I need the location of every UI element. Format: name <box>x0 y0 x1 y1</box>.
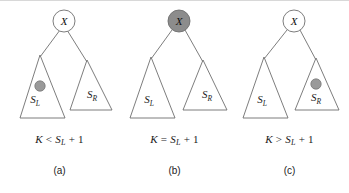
condition-operator: = <box>161 133 167 145</box>
panel-a-diagram: SL SR X <box>2 0 117 133</box>
condition-lhs: K <box>265 133 273 145</box>
left-subtree-triangle <box>243 57 288 118</box>
panel-label-b: (b) <box>117 165 232 176</box>
right-subtree-triangle <box>70 60 112 110</box>
edge-root-to-left <box>40 30 60 57</box>
edge-root-to-right <box>185 30 203 62</box>
target-marker <box>35 81 45 91</box>
panel-c: SL SR X K>SL+ 1 (c) <box>232 0 347 193</box>
panel-c-diagram: SL SR X <box>232 0 347 133</box>
edge-root-to-right <box>67 30 87 62</box>
edge-root-to-left <box>264 30 287 59</box>
root-node-label: X <box>60 15 69 27</box>
condition-operator: < <box>46 133 52 145</box>
root-node-label: X <box>175 15 184 27</box>
panel-label-a: (a) <box>2 165 117 176</box>
condition-rhs-tail: + 1 <box>299 133 314 145</box>
right-subtree-triangle <box>183 60 227 110</box>
left-subtree-triangle <box>130 57 175 118</box>
edge-root-to-right <box>300 30 316 60</box>
target-marker <box>311 79 321 89</box>
panel-label-c: (c) <box>232 165 347 176</box>
condition-c: K>SL+ 1 <box>232 133 347 147</box>
condition-rhs-tail: + 1 <box>184 133 199 145</box>
edge-root-to-left <box>151 30 172 59</box>
condition-b: K=SL+ 1 <box>117 133 232 147</box>
figure-container: SL SR X K<SL+ 1 (a) SL SR X K=SL+ 1 (b) <box>0 0 349 193</box>
condition-operator: > <box>276 133 282 145</box>
condition-lhs: K <box>150 133 158 145</box>
condition-lhs: K <box>35 133 43 145</box>
condition-a: K<SL+ 1 <box>2 133 117 147</box>
panel-a: SL SR X K<SL+ 1 (a) <box>2 0 117 193</box>
panel-b-diagram: SL SR X <box>117 0 232 133</box>
root-node-label: X <box>290 15 299 27</box>
panel-b: SL SR X K=SL+ 1 (b) <box>117 0 232 193</box>
condition-rhs-subscript: L <box>291 138 296 147</box>
condition-rhs-subscript: L <box>61 138 66 147</box>
condition-rhs-tail: + 1 <box>69 133 84 145</box>
condition-rhs-subscript: L <box>176 138 181 147</box>
